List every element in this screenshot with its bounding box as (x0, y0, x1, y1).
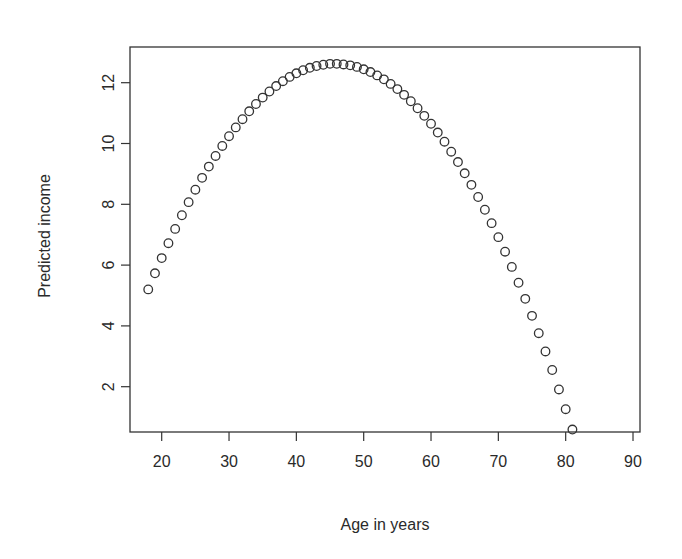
x-tick-label: 50 (355, 453, 373, 470)
data-point (245, 107, 254, 116)
data-point (454, 158, 463, 167)
plot-frame (130, 47, 640, 432)
data-point (413, 104, 422, 113)
data-point (440, 137, 449, 146)
data-point (191, 185, 200, 194)
data-point (231, 123, 240, 132)
data-point (184, 198, 193, 207)
data-point (467, 181, 476, 190)
data-point (501, 247, 510, 256)
data-point (494, 233, 503, 242)
x-tick-label: 40 (287, 453, 305, 470)
y-tick-label: 6 (100, 261, 117, 270)
data-point (238, 115, 247, 124)
data-point (427, 119, 436, 128)
data-point (548, 366, 557, 375)
data-point (144, 285, 153, 294)
x-axis: 2030405060708090 (153, 432, 642, 470)
data-point (433, 128, 442, 137)
data-point (460, 169, 469, 178)
y-tick-label: 2 (100, 382, 117, 391)
data-point (157, 254, 166, 263)
data-point (534, 329, 543, 338)
data-point (164, 239, 173, 248)
data-point (521, 295, 530, 304)
data-point (407, 97, 416, 106)
data-point (514, 278, 523, 287)
scatter-chart: 2030405060708090 24681012 Age in years P… (0, 0, 682, 559)
data-point (561, 405, 570, 414)
x-tick-label: 80 (557, 453, 575, 470)
y-axis-title: Predicted income (36, 174, 53, 298)
y-tick-label: 10 (100, 135, 117, 153)
data-point (151, 269, 160, 278)
x-axis-title: Age in years (341, 516, 430, 533)
data-point (474, 193, 483, 202)
y-tick-label: 8 (100, 200, 117, 209)
y-tick-label: 4 (100, 321, 117, 330)
data-point (420, 112, 429, 121)
data-point (541, 347, 550, 356)
data-point (528, 312, 537, 321)
data-point (400, 91, 409, 100)
data-point (171, 225, 180, 234)
data-point (481, 205, 490, 214)
y-tick-label: 12 (100, 74, 117, 92)
x-tick-label: 20 (153, 453, 171, 470)
y-axis: 24681012 (100, 74, 130, 391)
data-points (144, 60, 577, 434)
data-point (225, 132, 234, 141)
data-point (178, 211, 187, 220)
data-point (211, 152, 220, 161)
x-tick-label: 30 (220, 453, 238, 470)
data-point (447, 147, 456, 156)
x-tick-label: 90 (624, 453, 642, 470)
data-point (198, 174, 207, 183)
data-point (508, 263, 517, 272)
data-point (218, 142, 227, 151)
x-tick-label: 70 (489, 453, 507, 470)
data-point (205, 162, 214, 171)
data-point (555, 385, 564, 394)
data-point (252, 100, 261, 109)
data-point (487, 219, 496, 228)
x-tick-label: 60 (422, 453, 440, 470)
